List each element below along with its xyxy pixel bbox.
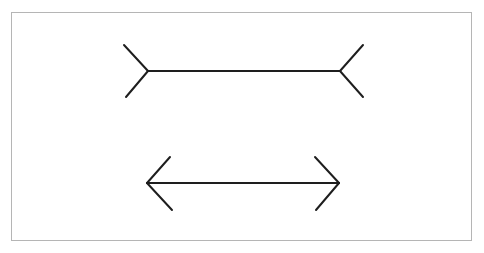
fins-in-figure (147, 157, 339, 210)
fins-out-right-fin (340, 71, 363, 97)
muller-lyer-diagram (0, 0, 484, 253)
fins-in-left-fin (147, 157, 170, 183)
fins-out-right-fin (340, 45, 363, 71)
fins-out-figure (124, 45, 363, 97)
fins-in-left-fin (147, 183, 172, 210)
fins-in-right-fin (316, 183, 339, 210)
fins-in-right-fin (315, 157, 339, 183)
fins-out-left-fin (124, 45, 148, 71)
fins-out-left-fin (126, 71, 148, 97)
